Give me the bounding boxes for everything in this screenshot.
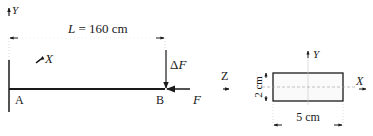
height-label: 2 cm	[252, 76, 264, 98]
global-x-axis: X	[36, 51, 54, 66]
width-label: 5 cm	[296, 110, 320, 124]
f-label: F	[192, 92, 202, 107]
global-y-axis: Y	[9, 4, 20, 16]
point-a-label: A	[15, 93, 24, 107]
beam-diagram: Y L = 160 cm X A B ΔF F Z Y	[0, 0, 373, 136]
length-dimension: L = 160 cm	[9, 21, 165, 60]
axis-y-label: Y	[12, 4, 20, 16]
axial-force: F	[167, 89, 202, 107]
global-z-axis: Z	[221, 69, 229, 89]
section-x-label: X	[355, 74, 364, 88]
delta-f-force: ΔF	[166, 50, 187, 88]
axis-z-label: Z	[221, 69, 228, 83]
point-b-label: B	[156, 93, 164, 107]
cross-section: Y X 2 cm 5 cm	[252, 48, 366, 127]
section-y-label: Y	[313, 48, 321, 60]
delta-f-label: ΔF	[170, 57, 187, 72]
axis-x-label: X	[44, 51, 54, 66]
length-label: L = 160 cm	[67, 21, 128, 36]
